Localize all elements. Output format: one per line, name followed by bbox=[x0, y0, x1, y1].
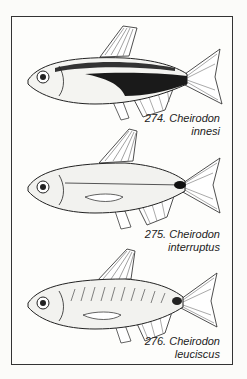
caption-276-line1: 276. Cheirodon bbox=[130, 335, 220, 348]
fish-illustration-cheirodon-leuciscus bbox=[25, 245, 225, 345]
caption-274-line1: 274. Cheirodon bbox=[130, 112, 220, 125]
caption-276-line2: leuciscus bbox=[130, 348, 220, 361]
caption-276: 276. Cheirodon leuciscus bbox=[130, 335, 220, 361]
fish-illustration-cheirodon-innesi bbox=[25, 22, 225, 122]
caption-275-line1: 275. Cheirodon bbox=[130, 228, 220, 241]
fish-illustration-cheirodon-interruptus bbox=[25, 125, 225, 230]
